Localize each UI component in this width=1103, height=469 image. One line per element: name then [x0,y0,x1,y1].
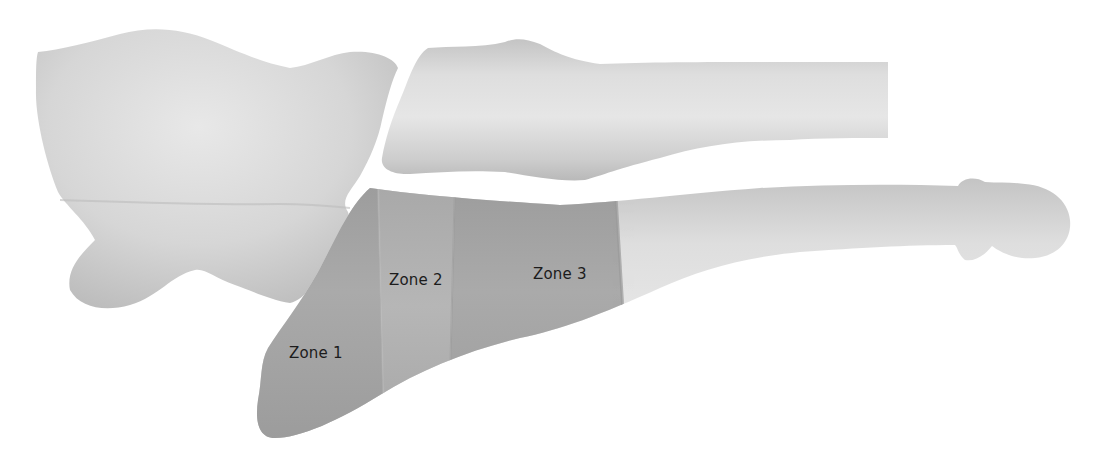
bone-illustration [0,0,1103,469]
zone-2-label: Zone 2 [389,271,443,289]
zone-3-label: Zone 3 [533,265,587,283]
zone-1-label: Zone 1 [289,344,343,362]
zone-2-region [378,180,455,460]
zone-3-region [448,180,632,460]
diagram-canvas: Zone 1 Zone 2 Zone 3 [0,0,1103,469]
fourth-metatarsal-bone [382,39,888,180]
